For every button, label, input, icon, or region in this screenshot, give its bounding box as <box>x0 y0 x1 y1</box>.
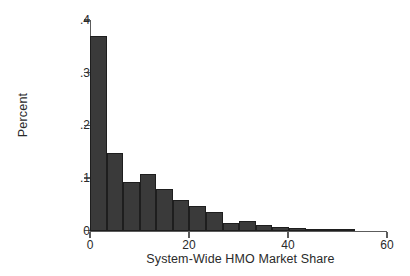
y-axis-tick-label: 0 <box>68 224 90 238</box>
y-axis-tick-label: .2 <box>68 118 90 132</box>
histogram-bar <box>156 189 173 231</box>
x-axis-tick-mark <box>287 232 288 238</box>
histogram-bar <box>339 229 356 231</box>
histogram-bar <box>107 153 124 231</box>
y-axis-tick-label: .4 <box>68 13 90 27</box>
x-axis-tick-label: 20 <box>169 238 209 252</box>
histogram-bar <box>289 228 306 231</box>
histogram-bar <box>239 221 256 230</box>
y-axis-title: Percent <box>16 70 30 160</box>
histogram-bar <box>223 223 240 231</box>
x-axis-title: System-Wide HMO Market Share <box>98 252 383 266</box>
x-axis-tick-mark <box>188 232 189 238</box>
histogram-bar <box>90 36 107 231</box>
histogram-bar <box>306 229 323 231</box>
y-axis-tick-label: .3 <box>68 66 90 80</box>
histogram-bar <box>173 200 190 231</box>
plot-area <box>90 20 387 231</box>
histogram-bar <box>123 182 140 230</box>
x-axis-tick-mark <box>386 232 387 238</box>
histogram-bar <box>206 212 223 231</box>
x-axis-tick-label: 60 <box>367 238 407 252</box>
histogram-figure: Percent 0.1.2.3.4 0204060 System-Wide HM… <box>0 0 410 276</box>
x-axis-tick-label: 40 <box>268 238 308 252</box>
x-axis-tick-label: 0 <box>70 238 110 252</box>
histogram-bar <box>140 174 157 230</box>
histogram-bar <box>189 206 206 231</box>
x-axis-tick-mark <box>89 232 90 238</box>
histogram-bar <box>322 229 339 231</box>
histogram-bar <box>272 227 289 230</box>
histogram-bar <box>256 225 273 231</box>
x-axis-line <box>90 231 387 232</box>
y-axis-tick-label: .1 <box>68 171 90 185</box>
